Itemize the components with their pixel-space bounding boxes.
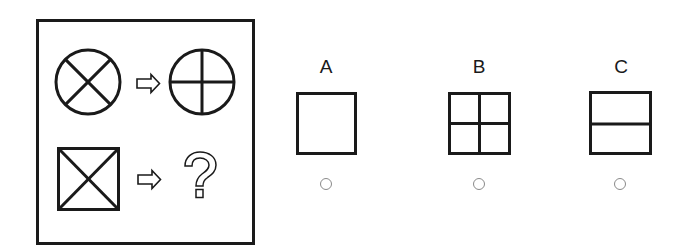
option-b-radio[interactable] xyxy=(473,178,485,190)
option-b-shape xyxy=(450,94,510,154)
square-diagonal-cross-icon xyxy=(59,149,119,210)
option-a-radio[interactable] xyxy=(320,178,332,190)
option-c-label: C xyxy=(601,57,641,77)
circle-diagonal-cross-icon xyxy=(56,50,120,114)
option-c-radio[interactable] xyxy=(614,178,626,190)
option-a-shape xyxy=(298,94,356,154)
option-b-label: B xyxy=(459,57,499,77)
option-a-label: A xyxy=(306,57,346,77)
question-mark-icon xyxy=(185,152,216,198)
right-arrow-icon xyxy=(138,171,161,189)
circle-orthogonal-cross-icon xyxy=(170,50,234,114)
puzzle-canvas xyxy=(0,0,686,247)
option-c-shape xyxy=(591,93,651,154)
right-arrow-icon xyxy=(137,75,160,93)
